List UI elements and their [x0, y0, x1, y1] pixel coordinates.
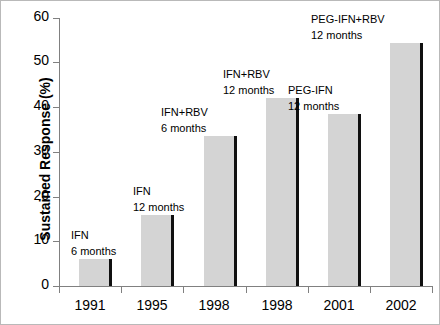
bar-annotation-2002-duration: 12 months [311, 27, 385, 43]
bar-annotation-2001-duration: 12 months [288, 98, 339, 114]
bar-annotation-1995-duration: 12 months [133, 199, 184, 215]
y-tick-label-10: 10 [33, 231, 49, 247]
x-tick-label-2001: 2001 [309, 297, 369, 313]
bar-2001 [328, 114, 361, 286]
y-tick-label-20: 20 [33, 187, 49, 203]
bar-2002 [390, 43, 423, 286]
y-tick-label-40: 40 [33, 97, 49, 113]
x-tick-1 [121, 286, 122, 293]
bar-annotation-1998-b: IFN+RBV 12 months [223, 66, 274, 98]
x-tick-6 [432, 286, 433, 293]
bar-annotation-1995-regimen: IFN [133, 185, 151, 197]
x-tick-label-1995: 1995 [122, 297, 182, 313]
x-tick-0 [59, 286, 60, 293]
bar-annotation-1991-duration: 6 months [71, 243, 116, 259]
bar-annotation-1991-regimen: IFN [71, 229, 89, 241]
x-tick-label-2002: 2002 [371, 297, 431, 313]
bar-annotation-1998-a: IFN+RBV 6 months [161, 104, 208, 136]
bar-annotation-1998-a-duration: 6 months [161, 120, 208, 136]
x-tick-3 [246, 286, 247, 293]
x-tick-4 [308, 286, 309, 293]
bar-annotation-2002-regimen: PEG-IFN+RBV [311, 13, 385, 25]
bar-annotation-2001: PEG-IFN 12 months [288, 82, 339, 114]
y-tick-label-0: 0 [41, 276, 49, 292]
bar-1991 [79, 259, 112, 286]
bar-1995 [141, 215, 174, 286]
bar-1998-a [204, 136, 237, 286]
y-tick-10: 10 [53, 241, 60, 242]
x-tick-label-1998-b: 1998 [247, 297, 307, 313]
bar-annotation-1995: IFN 12 months [133, 183, 184, 215]
y-tick-20: 20 [53, 197, 60, 198]
y-tick-60: 60 [53, 18, 60, 19]
y-tick-label-50: 50 [33, 52, 49, 68]
x-tick-label-1991: 1991 [60, 297, 120, 313]
bar-annotation-2001-regimen: PEG-IFN [288, 84, 333, 96]
y-tick-label-60: 60 [33, 8, 49, 24]
bar-1998-b [266, 98, 299, 286]
x-tick-5 [370, 286, 371, 293]
y-tick-label-30: 30 [33, 142, 49, 158]
bar-annotation-1998-b-duration: 12 months [223, 82, 274, 98]
bar-annotation-1991: IFN 6 months [71, 227, 116, 259]
y-tick-30: 30 [53, 152, 60, 153]
y-tick-40: 40 [53, 107, 60, 108]
bar-annotation-2002: PEG-IFN+RBV 12 months [311, 11, 385, 43]
bar-annotation-1998-b-regimen: IFN+RBV [223, 68, 270, 80]
x-tick-label-1998-a: 1998 [184, 297, 244, 313]
bar-annotation-1998-a-regimen: IFN+RBV [161, 106, 208, 118]
y-tick-50: 50 [53, 62, 60, 63]
x-tick-2 [183, 286, 184, 293]
chart-figure: Sustained Response (%) 60 50 40 30 20 10… [0, 0, 440, 325]
